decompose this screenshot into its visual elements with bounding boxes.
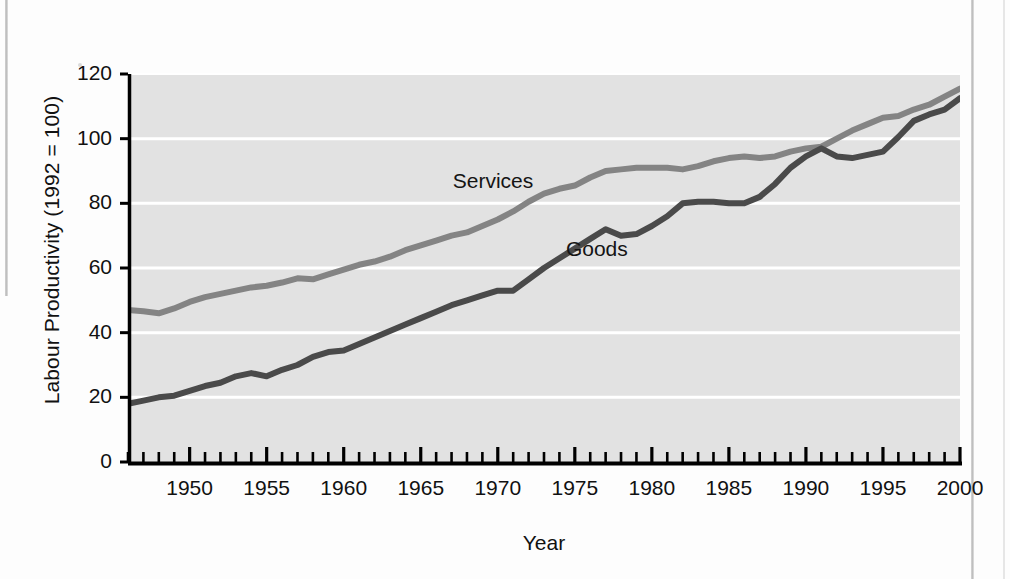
- y-axis-ticks: [120, 74, 128, 462]
- x-tick-label: 1995: [843, 476, 923, 500]
- y-tick-label: 120: [52, 61, 112, 85]
- x-tick-label: 2000: [920, 476, 1000, 500]
- x-tick-label: 1985: [689, 476, 769, 500]
- x-axis-title: Year: [128, 531, 960, 555]
- series-label-goods: Goods: [566, 237, 628, 261]
- x-tick-label: 1975: [535, 476, 615, 500]
- series-label-services: Services: [453, 169, 534, 193]
- y-tick-label: 0: [52, 449, 112, 473]
- chart-figure: Labour Productivity (1992 = 100) Year 12…: [0, 0, 1010, 579]
- y-tick-label: 80: [52, 190, 112, 214]
- x-tick-label: 1960: [304, 476, 384, 500]
- x-tick-label: 1970: [458, 476, 538, 500]
- x-tick-label: 1990: [766, 476, 846, 500]
- x-tick-label: 1965: [381, 476, 461, 500]
- x-tick-label: 1955: [227, 476, 307, 500]
- x-tick-label: 1980: [612, 476, 692, 500]
- y-tick-label: 20: [52, 384, 112, 408]
- y-tick-label: 60: [52, 255, 112, 279]
- y-tick-label: 40: [52, 320, 112, 344]
- y-tick-label: 100: [52, 126, 112, 150]
- x-tick-label: 1950: [150, 476, 230, 500]
